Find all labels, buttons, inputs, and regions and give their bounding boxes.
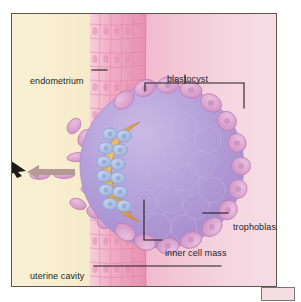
label-blastocyst: blastocyst xyxy=(167,74,208,85)
illustration-panel: endometrium blastocyst trophoblast inner… xyxy=(11,13,277,287)
label-trophoblast: trophoblast xyxy=(233,222,277,233)
label-uterine-cavity: uterine cavity xyxy=(30,271,84,282)
implantation-illustration xyxy=(12,14,277,287)
edge-pointer xyxy=(12,160,26,178)
label-inner-cell-mass: inner cell mass xyxy=(165,248,227,259)
label-endometrium: endometrium xyxy=(30,76,84,87)
figure-root: endometrium blastocyst trophoblast inner… xyxy=(0,0,301,302)
color-chip xyxy=(261,287,295,301)
